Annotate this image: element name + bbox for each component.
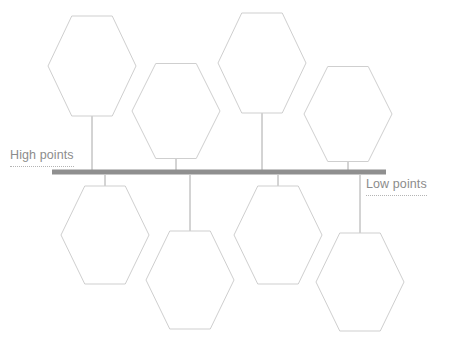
timeline-axis-bar — [52, 170, 386, 175]
hexagon-above-1[interactable] — [48, 16, 136, 116]
hexagon-below-1[interactable] — [61, 186, 149, 284]
low-points-label: Low points — [366, 178, 427, 198]
low-points-dotted-rule — [366, 195, 427, 196]
high-points-label-text: High points — [10, 148, 74, 162]
hexagon-timeline-diagram: High points Low points — [0, 0, 450, 347]
hexagon-below-3[interactable] — [234, 186, 322, 284]
hexagon-above-3[interactable] — [218, 13, 306, 113]
hexagon-below-2[interactable] — [146, 231, 234, 329]
hexagon-above-2[interactable] — [132, 64, 220, 159]
diagram-canvas — [0, 0, 450, 347]
low-points-label-text: Low points — [366, 177, 427, 191]
hexagon-above-4[interactable] — [304, 67, 392, 162]
high-points-label: High points — [10, 149, 74, 169]
high-points-dotted-rule — [10, 166, 74, 167]
hexagon-below-4[interactable] — [316, 233, 404, 331]
